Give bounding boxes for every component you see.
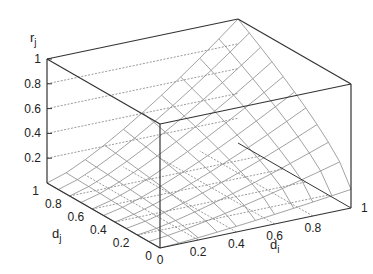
mesh-line-j [192,70,211,88]
mesh-line-i [180,174,191,183]
mesh-line-i [214,203,225,213]
mesh-line-i [145,221,156,228]
mesh-line-i [138,169,149,177]
axis-box [47,19,351,248]
z-grid-line [47,69,238,109]
mesh-line-i [157,228,168,235]
mesh-line-j [309,142,328,153]
mesh-line-j [143,95,162,112]
mesh-line-i [188,152,199,162]
mesh-line-i [215,111,226,123]
x-tick-label: 1 [361,201,368,215]
mesh-line-j [135,122,154,138]
mesh-line-j [89,175,108,187]
mesh-line-j [229,147,248,159]
mesh-line-j [252,174,271,184]
floor-grid-y [115,182,306,222]
z-tick-label: 0.2 [24,151,41,165]
z-tick-label: 1 [34,52,41,66]
mesh-line-j [176,127,195,142]
mesh-line-j [233,184,252,194]
mesh-line-j [184,100,203,116]
mesh-line-j [195,203,214,212]
mesh-line-i [172,195,183,204]
mesh-line-i [104,145,115,153]
mesh-line-i [242,65,253,79]
mesh-line-i [244,205,255,220]
mesh-line-j [302,171,321,180]
mesh-line-j [187,221,206,228]
mesh-line-j [180,162,199,175]
x-tick-label: 0.4 [228,237,245,251]
mesh-line-i [298,137,309,153]
mesh-line-i [176,220,187,228]
mesh-line-j [100,182,119,193]
mesh-line-i [200,58,211,70]
floor-grid-x [123,167,236,232]
box-top-right [238,19,351,84]
mesh-line-j [256,107,275,121]
mesh-line-j [85,145,104,160]
floor-grid-x [162,159,275,224]
mesh-line-i [271,174,282,189]
mesh-line-j [162,77,181,95]
mesh-line-j [210,160,229,172]
mesh-line-i [168,236,179,244]
mesh-line-i [187,229,198,238]
mesh-line-i [272,62,283,77]
mesh-line-j [242,47,261,65]
mesh-line-i [119,182,130,190]
mesh-line-j [253,62,272,79]
mesh-line-j [237,121,256,135]
y-axis-label: dj [52,226,61,244]
mesh-line-i [210,172,221,183]
mesh-line-i [123,207,134,214]
mesh-line-i [283,77,294,92]
mesh-line-j [92,200,111,209]
mesh-line-i [77,180,88,187]
mesh-line-j [137,228,156,235]
mesh-line-i [97,167,108,174]
mesh-line-j [271,164,290,174]
mesh-line-i [192,88,203,99]
mesh-line-i [206,221,217,232]
mesh-line-j [149,236,168,242]
surface-plot: 0.20.40.60.8100.20.40.60.8100.20.40.60.8… [0,0,373,274]
mesh-line-i [173,106,184,116]
mesh-line-i [230,52,241,65]
mesh-line-i [85,160,96,167]
mesh-line-i [207,137,218,148]
mesh-line-j [234,79,253,95]
mesh-line-j [111,190,130,201]
mesh-line-i [222,83,233,96]
y-tick-label: 0.8 [45,197,62,211]
mesh-line-i [249,33,260,47]
mesh-line-j [164,203,183,212]
mesh-line-j [119,169,138,182]
mesh-line-j [134,205,153,214]
mesh-line-j [222,65,241,82]
mesh-line-j [104,207,123,215]
mesh-line-i [328,142,339,162]
mesh-line-i [260,160,271,174]
mesh-line-i [222,183,233,194]
z-axis-label: rj [30,30,37,48]
mesh-line-j [222,172,241,183]
mesh-line-i [191,183,202,193]
mesh-line-j [214,194,233,203]
mesh-line-i [282,189,293,209]
mesh-line-j [183,193,202,203]
mesh-line-i [279,149,290,164]
y-tick-label: 0.6 [68,210,85,224]
mesh-line-j [218,135,237,149]
mesh-line-i [263,197,274,214]
mesh-line-i [195,212,206,221]
mesh-line-j [153,195,172,205]
mesh-line-i [100,193,111,200]
mesh-line-i [199,162,210,172]
mesh-line-i [108,175,119,182]
mesh-line-j [230,33,249,52]
mesh-line-i [290,164,301,180]
mesh-line-j [244,197,263,205]
z-grid-line [47,44,238,84]
